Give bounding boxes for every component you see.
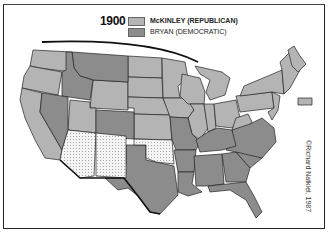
legend-label-democratic: BRYAN (DEMOCRATIC)	[150, 28, 227, 35]
legend-label-republican: McKINLEY (REPUBLICAN)	[150, 17, 238, 24]
legend-swatch-democratic	[128, 28, 145, 37]
legend-swatch-republican	[128, 17, 145, 26]
state-ks	[134, 114, 172, 140]
map-credit: ©Richard Natkiel, 1987	[305, 140, 312, 212]
state-ms-al	[194, 154, 224, 186]
state-ar	[174, 150, 196, 172]
territory-nm	[96, 133, 126, 178]
state-ri-inset	[298, 98, 312, 105]
map-year: 1900	[100, 14, 126, 28]
state-sd	[128, 77, 163, 98]
state-wi	[180, 74, 205, 104]
us-election-map	[0, 0, 330, 236]
state-ny	[240, 70, 284, 96]
state-fl	[208, 182, 262, 218]
state-nd	[128, 56, 162, 78]
state-wy	[90, 80, 128, 110]
